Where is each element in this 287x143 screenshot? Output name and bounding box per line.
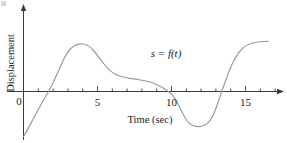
y-axis-arrowhead — [21, 4, 26, 11]
x-axis-arrowhead — [277, 89, 284, 94]
curve-equation-label: s = f(t) — [151, 47, 182, 60]
x-axis-title: Time (sec) — [128, 114, 173, 126]
displacement-time-figure: 0 5 10 15 Time (sec) Displacement s = f(… — [0, 0, 287, 143]
xtick-label-15: 15 — [240, 96, 252, 108]
xtick-label-5: 5 — [95, 96, 101, 108]
xtick-label-0: 0 — [16, 95, 22, 107]
xtick-label-10: 10 — [166, 96, 178, 108]
y-axis-title: Displacement — [5, 34, 16, 92]
plot-canvas: 0 5 10 15 Time (sec) Displacement s = f(… — [0, 0, 287, 143]
